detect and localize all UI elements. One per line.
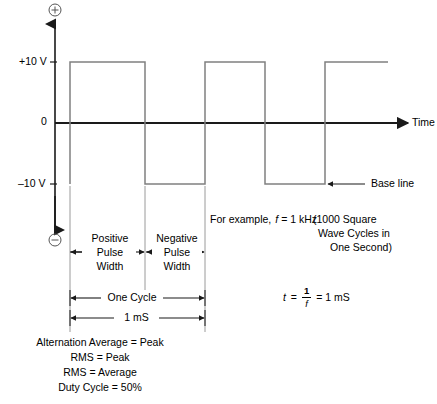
period-label: 1 mS bbox=[114, 311, 159, 323]
frequency-value: = 1 kHz bbox=[281, 213, 317, 225]
formula-fraction: 1 f bbox=[302, 286, 311, 308]
note-rms-peak: RMS = Peak bbox=[0, 351, 200, 363]
formula-equals: = bbox=[291, 291, 297, 303]
y-tick-label-minus10: –10 V bbox=[18, 177, 45, 189]
note-rms-average: RMS = Average bbox=[0, 366, 200, 378]
formula-result: = 1 mS bbox=[316, 291, 350, 303]
positive-pulse-width-line1: Positive bbox=[76, 232, 144, 244]
formula-numerator: 1 bbox=[302, 286, 311, 298]
positive-pulse-width-line3: Width bbox=[76, 260, 144, 272]
negative-pulse-width-line2: Pulse bbox=[152, 246, 202, 258]
x-axis-label-time: Time bbox=[412, 116, 435, 128]
y-tick-label-plus10: +10 V bbox=[19, 55, 47, 67]
figure-canvas: +10 V 0 –10 V Time Base line Positive Pu… bbox=[0, 0, 437, 404]
cycles-note-line2: Wave Cycles in bbox=[318, 227, 390, 239]
base-line-label: Base line bbox=[371, 177, 414, 189]
formula-denominator: f bbox=[302, 298, 311, 309]
note-alternation-average: Alternation Average = Peak bbox=[0, 336, 200, 348]
negative-pulse-width-line1: Negative bbox=[146, 232, 208, 244]
example-statement: For example,f= 1 kHz bbox=[210, 213, 317, 225]
one-cycle-label: One Cycle bbox=[101, 291, 163, 303]
note-duty-cycle: Duty Cycle = 50% bbox=[0, 381, 200, 393]
negative-pulse-width-line3: Width bbox=[146, 260, 208, 272]
period-formula: t = 1 f = 1 mS bbox=[283, 286, 350, 308]
frequency-symbol: f bbox=[275, 213, 278, 225]
y-tick-label-zero: 0 bbox=[41, 115, 47, 127]
formula-t-symbol: t bbox=[283, 291, 286, 303]
positive-pulse-width-line2: Pulse bbox=[84, 246, 136, 258]
cycles-note-line1: (1000 Square bbox=[313, 213, 377, 225]
example-lead: For example, bbox=[210, 213, 271, 225]
cycles-note-line3: One Second) bbox=[330, 241, 392, 253]
vertical-axis bbox=[49, 4, 61, 246]
